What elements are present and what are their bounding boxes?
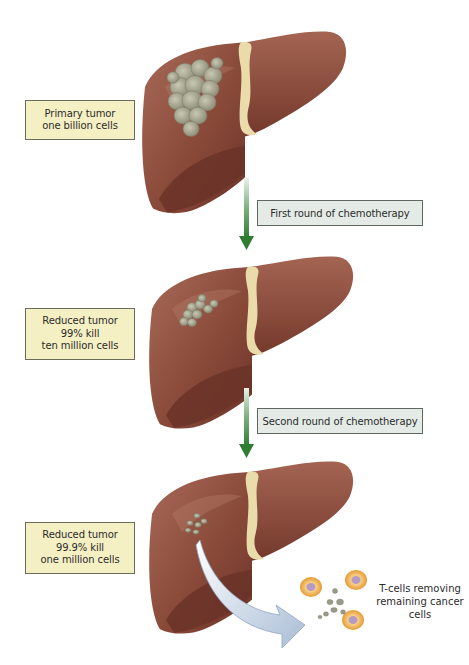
t-cell (345, 570, 367, 590)
down-arrow-1 (239, 178, 254, 250)
label-line: Reduced tumor (42, 529, 117, 542)
t-cell (300, 577, 322, 597)
t-cells (300, 570, 367, 630)
label-line: ten million cells (42, 340, 119, 353)
label-line: 99% kill (61, 328, 100, 341)
label-primary-tumor: Primary tumor one billion cells (25, 100, 135, 140)
step-second-chemo: Second round of chemotherapy (257, 408, 423, 434)
step-first-chemo: First round of chemotherapy (257, 200, 423, 226)
label-line: 99.9% kill (56, 542, 104, 555)
caption-line: remaining cancer cells (370, 595, 469, 621)
cancer-cells (318, 589, 346, 619)
label-line: one million cells (41, 554, 120, 567)
chemotherapy-diagram: Primary tumor one billion cells Reduced … (0, 0, 469, 665)
step-label: First round of chemotherapy (270, 208, 409, 219)
label-line: Reduced tumor (42, 315, 117, 328)
label-reduced-tumor-99: Reduced tumor 99% kill ten million cells (25, 308, 135, 360)
label-line: Primary tumor (45, 108, 116, 121)
tcell-caption: T-cells removing remaining cancer cells (370, 582, 469, 621)
label-reduced-tumor-999: Reduced tumor 99.9% kill one million cel… (25, 522, 135, 574)
liver-reduced-99 (149, 257, 353, 429)
step-label: Second round of chemotherapy (263, 416, 418, 427)
caption-line: T-cells removing (370, 582, 469, 595)
label-line: one billion cells (42, 120, 118, 133)
